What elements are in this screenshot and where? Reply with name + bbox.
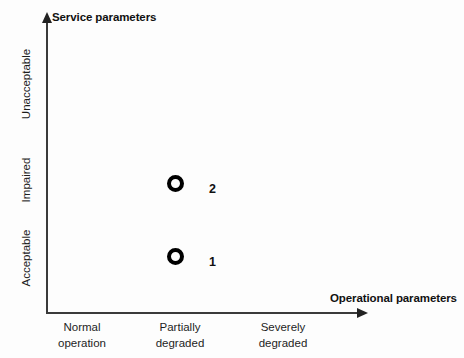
y-axis-arrow-icon [42, 12, 52, 23]
x-axis-title: Operational parameters [330, 292, 457, 304]
x-tick-line1: Partially [120, 319, 240, 335]
data-point-marker-1[interactable] [167, 248, 184, 265]
y-tick-text: Impaired [20, 158, 32, 203]
x-tick-line1: Severely [223, 319, 343, 335]
data-point-label-2: 2 [209, 182, 216, 196]
y-tick-label-acceptable: Acceptable [20, 198, 32, 318]
x-axis-line [46, 312, 359, 314]
x-tick-label-partially-degraded: Partially degraded [120, 319, 240, 351]
x-tick-line2: degraded [223, 335, 343, 351]
x-axis-arrow-icon [357, 308, 368, 318]
data-point-marker-2[interactable] [167, 175, 184, 192]
x-tick-line2: degraded [120, 335, 240, 351]
y-axis-line [46, 22, 48, 313]
x-tick-label-severely-degraded: Severely degraded [223, 319, 343, 351]
y-tick-text: Acceptable [20, 230, 32, 287]
chart-canvas: Service parameters Operational parameter… [0, 0, 464, 358]
y-axis-title: Service parameters [52, 11, 156, 23]
y-tick-text: Unacceptable [20, 49, 32, 119]
data-point-label-1: 1 [209, 255, 216, 269]
